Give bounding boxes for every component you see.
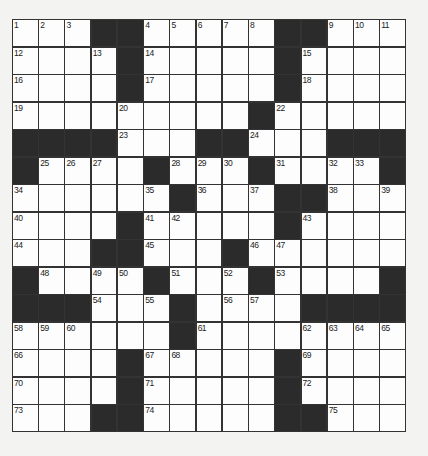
grid-cell[interactable]: 2 xyxy=(39,20,64,46)
grid-cell[interactable]: 71 xyxy=(144,378,169,404)
grid-cell[interactable] xyxy=(118,185,143,211)
grid-cell[interactable]: 48 xyxy=(39,268,64,294)
grid-cell[interactable] xyxy=(302,158,327,184)
grid-cell[interactable]: 57 xyxy=(249,295,274,321)
grid-cell[interactable] xyxy=(170,48,195,74)
grid-cell[interactable] xyxy=(92,213,117,239)
grid-cell[interactable] xyxy=(92,323,117,349)
grid-cell[interactable]: 58 xyxy=(13,323,38,349)
grid-cell[interactable] xyxy=(65,213,90,239)
grid-cell[interactable] xyxy=(302,103,327,129)
grid-cell[interactable] xyxy=(170,378,195,404)
grid-cell[interactable]: 7 xyxy=(223,20,248,46)
grid-cell[interactable] xyxy=(65,48,90,74)
grid-cell[interactable] xyxy=(275,130,300,156)
grid-cell[interactable]: 20 xyxy=(118,103,143,129)
grid-cell[interactable] xyxy=(144,103,169,129)
grid-cell[interactable] xyxy=(118,323,143,349)
grid-cell[interactable] xyxy=(39,48,64,74)
grid-cell[interactable]: 31 xyxy=(275,158,300,184)
grid-cell[interactable] xyxy=(275,295,300,321)
grid-cell[interactable] xyxy=(380,48,405,74)
grid-cell[interactable] xyxy=(39,103,64,129)
grid-cell[interactable]: 66 xyxy=(13,350,38,376)
grid-cell[interactable] xyxy=(39,405,64,431)
grid-cell[interactable] xyxy=(354,185,379,211)
grid-cell[interactable] xyxy=(380,240,405,266)
grid-cell[interactable] xyxy=(65,405,90,431)
grid-cell[interactable] xyxy=(302,130,327,156)
grid-cell[interactable] xyxy=(223,213,248,239)
grid-cell[interactable] xyxy=(65,103,90,129)
grid-cell[interactable]: 23 xyxy=(118,130,143,156)
grid-cell[interactable]: 38 xyxy=(328,185,353,211)
grid-cell[interactable]: 17 xyxy=(144,75,169,101)
grid-cell[interactable] xyxy=(354,75,379,101)
grid-cell[interactable] xyxy=(65,185,90,211)
grid-cell[interactable] xyxy=(144,323,169,349)
grid-cell[interactable]: 56 xyxy=(223,295,248,321)
grid-cell[interactable] xyxy=(249,405,274,431)
grid-cell[interactable] xyxy=(144,130,169,156)
grid-cell[interactable] xyxy=(197,350,222,376)
grid-cell[interactable]: 13 xyxy=(92,48,117,74)
grid-cell[interactable] xyxy=(380,103,405,129)
grid-cell[interactable]: 18 xyxy=(302,75,327,101)
grid-cell[interactable] xyxy=(354,268,379,294)
grid-cell[interactable] xyxy=(65,378,90,404)
grid-cell[interactable]: 69 xyxy=(302,350,327,376)
grid-cell[interactable] xyxy=(354,213,379,239)
grid-cell[interactable] xyxy=(223,405,248,431)
grid-cell[interactable] xyxy=(39,75,64,101)
grid-cell[interactable]: 55 xyxy=(144,295,169,321)
grid-cell[interactable]: 42 xyxy=(170,213,195,239)
grid-cell[interactable] xyxy=(39,213,64,239)
grid-cell[interactable]: 63 xyxy=(328,323,353,349)
grid-cell[interactable] xyxy=(65,268,90,294)
grid-cell[interactable] xyxy=(380,213,405,239)
grid-cell[interactable] xyxy=(197,75,222,101)
grid-cell[interactable] xyxy=(249,350,274,376)
grid-cell[interactable] xyxy=(197,48,222,74)
grid-cell[interactable]: 49 xyxy=(92,268,117,294)
grid-cell[interactable] xyxy=(354,48,379,74)
grid-cell[interactable] xyxy=(170,405,195,431)
grid-cell[interactable] xyxy=(302,240,327,266)
grid-cell[interactable]: 62 xyxy=(302,323,327,349)
grid-cell[interactable] xyxy=(92,75,117,101)
grid-cell[interactable] xyxy=(354,405,379,431)
grid-cell[interactable]: 60 xyxy=(65,323,90,349)
grid-cell[interactable] xyxy=(170,130,195,156)
grid-cell[interactable] xyxy=(354,378,379,404)
grid-cell[interactable] xyxy=(39,185,64,211)
grid-cell[interactable]: 22 xyxy=(275,103,300,129)
grid-cell[interactable]: 33 xyxy=(354,158,379,184)
grid-cell[interactable]: 10 xyxy=(354,20,379,46)
grid-cell[interactable]: 3 xyxy=(65,20,90,46)
grid-cell[interactable]: 9 xyxy=(328,20,353,46)
grid-cell[interactable] xyxy=(223,185,248,211)
grid-cell[interactable]: 36 xyxy=(197,185,222,211)
grid-cell[interactable] xyxy=(197,213,222,239)
grid-cell[interactable] xyxy=(328,268,353,294)
grid-cell[interactable] xyxy=(197,295,222,321)
grid-cell[interactable]: 28 xyxy=(170,158,195,184)
grid-cell[interactable] xyxy=(170,240,195,266)
grid-cell[interactable] xyxy=(328,48,353,74)
grid-cell[interactable] xyxy=(354,240,379,266)
grid-cell[interactable]: 12 xyxy=(13,48,38,74)
grid-cell[interactable] xyxy=(39,378,64,404)
grid-cell[interactable]: 14 xyxy=(144,48,169,74)
grid-cell[interactable] xyxy=(197,240,222,266)
grid-cell[interactable]: 41 xyxy=(144,213,169,239)
grid-cell[interactable]: 46 xyxy=(249,240,274,266)
grid-cell[interactable] xyxy=(302,268,327,294)
grid-cell[interactable] xyxy=(118,295,143,321)
grid-cell[interactable] xyxy=(275,323,300,349)
grid-cell[interactable]: 45 xyxy=(144,240,169,266)
grid-cell[interactable] xyxy=(354,350,379,376)
grid-cell[interactable] xyxy=(170,75,195,101)
grid-cell[interactable]: 1 xyxy=(13,20,38,46)
grid-cell[interactable]: 5 xyxy=(170,20,195,46)
grid-cell[interactable] xyxy=(197,268,222,294)
